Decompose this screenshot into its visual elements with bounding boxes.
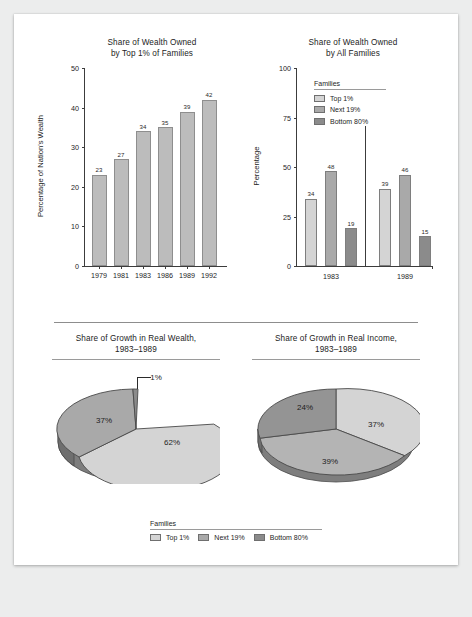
- bar-1983-bottom80: [345, 228, 357, 266]
- bar-value-1983-next19: 48: [325, 163, 337, 170]
- legend-label-bottom80: Bottom 80%: [270, 534, 308, 541]
- legend-label-top1: Top 1%: [166, 534, 189, 541]
- group-separator: [365, 126, 366, 266]
- y-axis-label-nations-wealth: Percentage of Nation's Wealth: [36, 115, 45, 217]
- x-label-1992: 1992: [201, 271, 217, 280]
- chart-title-line1: Share of Growth in Real Income,: [246, 334, 426, 345]
- legend-item-bottom80: Bottom 80%: [314, 118, 386, 125]
- x-label-1983: 1983: [323, 272, 339, 281]
- legend-item-next19: Next 19%: [314, 106, 386, 113]
- bar-value-1983: 34: [136, 123, 151, 130]
- chart-title-line1: Share of Growth in Real Wealth,: [46, 334, 226, 345]
- bar-value-1989-next19: 46: [399, 166, 411, 173]
- legend-title: Families: [150, 520, 322, 530]
- bar-value-1979: 23: [92, 166, 107, 173]
- legend-item-bottom80: Bottom 80%: [254, 534, 308, 541]
- chart-title-line2: 1983–1989: [246, 345, 426, 356]
- bar-value-1989: 39: [180, 103, 195, 110]
- pie-svg-income: [252, 366, 420, 484]
- bar-value-1986: 35: [158, 119, 173, 126]
- bar-value-1983-bottom80: 19: [345, 220, 357, 227]
- y-tick-25: 25: [267, 212, 297, 221]
- legend-swatch-next19-icon: [198, 534, 209, 541]
- y-tick-50: 50: [53, 64, 85, 73]
- title-rule: [252, 359, 420, 360]
- chart-title-line2: by All Families: [270, 49, 436, 60]
- bar-1986: [158, 127, 173, 266]
- y-tick-0: 0: [267, 262, 297, 271]
- y-tick-0: 0: [53, 262, 85, 271]
- pie-value-bottom80: 1%: [150, 373, 162, 382]
- title-rule: [52, 359, 220, 360]
- bar-1981: [114, 159, 129, 266]
- bar-1992: [202, 100, 217, 266]
- y-tick-75: 75: [267, 113, 297, 122]
- bar-1989-top1: [379, 189, 391, 266]
- x-label-1983: 1983: [135, 271, 151, 280]
- legend-families-horizontal: Families Top 1% Next 19% Bottom 80%: [150, 520, 322, 541]
- section-divider: [54, 322, 418, 323]
- bar-value-1981: 27: [114, 151, 129, 158]
- y-tick-40: 40: [53, 103, 85, 112]
- pie-graphic-wealth: 62% 37% 1%: [52, 366, 220, 484]
- chart-title-line2: by Top 1% of Families: [62, 49, 242, 60]
- legend-label-next19: Next 19%: [330, 106, 360, 113]
- bar-1979: [92, 175, 107, 266]
- legend-item-next19: Next 19%: [198, 534, 244, 541]
- legend-swatch-top1-icon: [150, 534, 161, 541]
- pie-section: Share of Growth in Real Wealth, 1983–198…: [36, 334, 436, 543]
- pie-graphic-income: 37% 39% 24%: [252, 366, 420, 484]
- chart-title-line1: Share of Wealth Owned: [62, 38, 242, 49]
- chart-wealth-top1-percent: Share of Wealth Owned by Top 1% of Famil…: [36, 36, 248, 304]
- legend-swatch-bottom80-icon: [254, 534, 265, 541]
- chart-title-wealth-all: Share of Wealth Owned by All Families: [270, 38, 436, 59]
- pie-leader-line: [137, 377, 151, 378]
- pie-value-next19: 39%: [322, 457, 338, 466]
- x-label-1986: 1986: [157, 271, 173, 280]
- bar-1983-top1: [305, 199, 317, 266]
- chart-title-line1: Share of Wealth Owned: [270, 38, 436, 49]
- legend-label-bottom80: Bottom 80%: [330, 118, 368, 125]
- plot-area-top1: 0 10 20 30 40 50 23 1979 27 1981 34 1983: [84, 68, 227, 267]
- y-tick-100: 100: [267, 64, 297, 73]
- chart-title-growth-wealth: Share of Growth in Real Wealth, 1983–198…: [46, 334, 226, 355]
- pie-value-bottom80: 24%: [297, 403, 313, 412]
- y-tick-30: 30: [53, 143, 85, 152]
- pie-value-next19: 37%: [96, 416, 112, 425]
- chart-title-line2: 1983–1989: [46, 345, 226, 356]
- bar-1989-bottom80: [419, 236, 431, 266]
- bar-value-1989-bottom80: 15: [419, 228, 431, 235]
- y-tick-20: 20: [53, 182, 85, 191]
- y-tick-10: 10: [53, 222, 85, 231]
- legend-swatch-top1-icon: [314, 95, 325, 102]
- legend-swatch-bottom80-icon: [314, 118, 325, 125]
- y-tick-50: 50: [267, 163, 297, 172]
- bar-value-1992: 42: [202, 91, 217, 98]
- legend-title: Families: [314, 80, 386, 90]
- pie-value-top1: 62%: [164, 438, 180, 447]
- chart-title-wealth-top1: Share of Wealth Owned by Top 1% of Famil…: [62, 38, 242, 59]
- bar-1989-next19: [399, 175, 411, 266]
- legend-item-top1: Top 1%: [150, 534, 189, 541]
- legend-item-top1: Top 1%: [314, 95, 386, 102]
- figure-container: Share of Wealth Owned by Top 1% of Famil…: [36, 36, 436, 543]
- y-axis-label-percentage: Percentage: [252, 147, 261, 186]
- x-label-1979: 1979: [91, 271, 107, 280]
- bar-value-1983-top1: 34: [305, 190, 317, 197]
- chart-wealth-all-families: Share of Wealth Owned by All Families Pe…: [254, 36, 436, 304]
- legend-label-next19: Next 19%: [214, 534, 244, 541]
- pie-leader-stem: [137, 377, 138, 389]
- x-label-1989: 1989: [397, 272, 413, 281]
- legend-swatch-next19-icon: [314, 106, 325, 113]
- pie-svg-wealth: [52, 366, 220, 484]
- x-label-1989: 1989: [179, 271, 195, 280]
- bar-1983: [136, 131, 151, 266]
- legend-label-top1: Top 1%: [330, 95, 353, 102]
- chart-title-growth-income: Share of Growth in Real Income, 1983–198…: [246, 334, 426, 355]
- document-page: Share of Wealth Owned by Top 1% of Famil…: [14, 14, 458, 565]
- bar-1983-next19: [325, 171, 337, 266]
- bar-1989: [180, 112, 195, 266]
- pie-value-top1: 37%: [368, 420, 384, 429]
- legend-families-vertical: Families Top 1% Next 19% Bottom 80%: [314, 80, 386, 125]
- x-label-1981: 1981: [113, 271, 129, 280]
